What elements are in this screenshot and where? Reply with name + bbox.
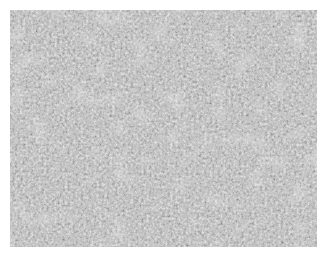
micrograph-image <box>10 10 317 247</box>
cell-texture <box>10 10 317 247</box>
